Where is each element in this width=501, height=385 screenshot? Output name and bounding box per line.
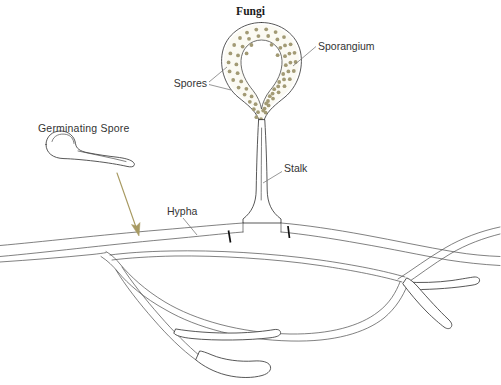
- stalk-group: [243, 120, 281, 223]
- label-hypha: Hypha: [167, 205, 198, 217]
- hypha-loop-upper-edge: [106, 252, 400, 335]
- page-title: Fungi: [236, 5, 266, 18]
- label-stalk: Stalk: [284, 162, 308, 174]
- hypha-stalk-foot: [243, 223, 281, 232]
- hypha-branch-ne-lower: [404, 234, 500, 285]
- germination-arrow-head: [132, 223, 141, 237]
- septum-right: [288, 226, 290, 238]
- hypha-main-lower-edge: [0, 232, 243, 257]
- sporangium-group: [222, 23, 302, 128]
- stalk: [243, 120, 281, 223]
- fungi-diagram-figure: Fungi Sporangium Spores Stalk Hypha Germ…: [0, 0, 501, 385]
- hypha-network: [0, 223, 500, 378]
- label-sporangium: Sporangium: [318, 40, 375, 52]
- label-germinating-spore: Germinating Spore: [38, 122, 130, 134]
- label-spores: Spores: [174, 77, 207, 89]
- hypha-main-right-upper: [281, 223, 500, 257]
- hypha-branch-sw-lower: [116, 270, 196, 360]
- germination-arrow: [117, 173, 140, 236]
- septum-left: [229, 231, 231, 243]
- leader-hypha: [183, 218, 197, 235]
- germination-arrow-shaft: [117, 173, 137, 230]
- hypha-chord-lower: [112, 256, 402, 282]
- diagram-canvas: Fungi Sporangium Spores Stalk Hypha Germ…: [0, 0, 501, 385]
- hypha-main-upper-edge: [0, 223, 243, 246]
- germinating-spore-body: [46, 131, 134, 167]
- hypha-left-lower-edge: [0, 253, 106, 262]
- hypha-branch-ne-upper: [398, 227, 500, 279]
- leader-spores-lower: [209, 85, 231, 91]
- hypha-chord-upper: [110, 251, 405, 277]
- hypha-branch-hook: [174, 329, 281, 340]
- hypha-loop-lower-edge: [101, 257, 407, 342]
- hypha-branch-sw-upper: [122, 267, 200, 356]
- germinating-spore-group: [46, 131, 134, 167]
- hypha-branch-sw-cap: [196, 351, 271, 378]
